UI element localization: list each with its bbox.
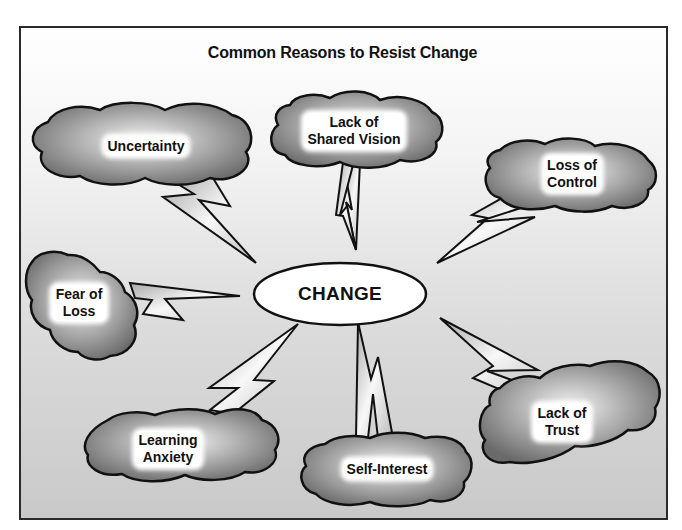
reason-label-fear-of-loss: Fear ofLoss [53, 285, 106, 321]
bolt-shared-vision [336, 162, 360, 250]
reason-label-shared-vision: Lack ofShared Vision [304, 113, 403, 149]
reason-label-uncertainty: Uncertainty [104, 137, 187, 156]
reason-label-lack-of-trust: Lack ofTrust [534, 404, 589, 440]
bolt-uncertainty [163, 178, 256, 263]
reason-label-loss-of-control: Loss ofControl [544, 156, 600, 192]
center-label: CHANGE [298, 283, 382, 305]
reason-label-learning-anxiety: LearningAnxiety [135, 431, 200, 467]
bolt-self-interest [356, 322, 393, 438]
bolt-fear-of-loss [130, 283, 240, 320]
diagram-art [0, 0, 682, 530]
reason-label-self-interest: Self-Interest [344, 460, 431, 479]
bolt-learning-anxiety [209, 324, 298, 414]
